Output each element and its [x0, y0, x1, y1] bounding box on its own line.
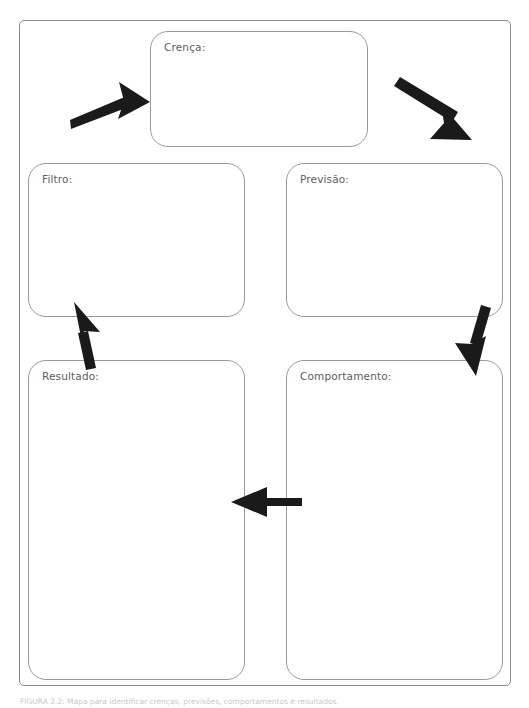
- worksheet-page: Crença: Filtro: Previsão: Resultado: Com…: [0, 0, 529, 708]
- box-filtro-label: Filtro:: [42, 173, 72, 185]
- box-resultado-label: Resultado:: [42, 370, 99, 382]
- box-comportamento[interactable]: Comportamento:: [286, 360, 503, 680]
- box-crenca[interactable]: Crença:: [150, 31, 368, 147]
- box-resultado[interactable]: Resultado:: [28, 360, 245, 680]
- box-crenca-label: Crença:: [164, 41, 205, 53]
- box-comportamento-label: Comportamento:: [300, 370, 391, 382]
- box-previsao[interactable]: Previsão:: [286, 163, 503, 317]
- box-filtro[interactable]: Filtro:: [28, 163, 245, 317]
- box-previsao-label: Previsão:: [300, 173, 349, 185]
- figure-caption: FIGURA 2.2: Mapa para identificar crença…: [20, 697, 500, 708]
